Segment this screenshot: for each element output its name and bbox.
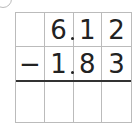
cell: 8 (74, 47, 103, 80)
cell: 6 (45, 13, 74, 46)
subtrahend-row: − 1 8 3 (16, 47, 131, 82)
cell (16, 13, 45, 46)
decimal-point (71, 37, 74, 40)
answer-row[interactable] (16, 82, 131, 122)
problem-number-circle (0, 0, 12, 8)
cell: 3 (102, 47, 131, 80)
cell: 1 (45, 47, 74, 80)
answer-cell[interactable] (45, 82, 74, 122)
cell: − (16, 47, 45, 80)
answer-cell[interactable] (102, 82, 131, 122)
digit: 8 (79, 49, 96, 79)
cell: 2 (102, 13, 131, 46)
answer-cell[interactable] (74, 82, 103, 122)
cell: 1 (74, 13, 103, 46)
minuend-row: 6 1 2 (16, 13, 131, 47)
answer-cell[interactable] (16, 82, 45, 122)
decimal-point (71, 71, 74, 74)
digit: 1 (79, 15, 96, 45)
subtraction-grid: 6 1 2 − 1 8 3 (15, 12, 132, 123)
